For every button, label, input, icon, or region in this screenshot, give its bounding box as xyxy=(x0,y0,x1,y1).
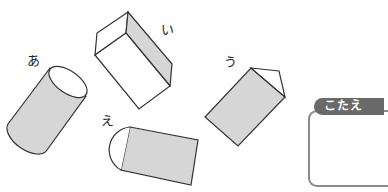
answer-box[interactable] xyxy=(308,110,388,187)
label-i: い xyxy=(161,23,174,36)
label-e: え xyxy=(101,114,114,127)
label-u: う xyxy=(224,55,237,68)
figure-u-prism xyxy=(205,68,285,146)
label-a: あ xyxy=(27,54,40,67)
figure-e-half-cylinder xyxy=(109,127,198,185)
answer-tab: こたえ xyxy=(314,98,384,115)
figure-a-cylinder xyxy=(7,60,92,154)
